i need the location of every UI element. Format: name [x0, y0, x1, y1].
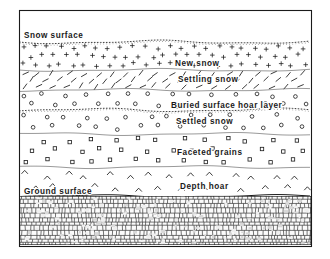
- boundary-stipple-dot: [106, 109, 107, 110]
- boundary-stipple-dot: [159, 113, 160, 114]
- ground-block-fill: [97, 214, 100, 217]
- boundary-stipple-dot: [268, 44, 269, 45]
- boundary-stipple-dot: [131, 110, 132, 111]
- boundary-stipple-dot: [72, 44, 73, 45]
- boundary-stipple-dot: [283, 109, 284, 110]
- boundary-stipple-dot: [54, 45, 55, 46]
- boundary-stipple-dot: [32, 44, 33, 45]
- boundary-stipple-dot: [196, 43, 197, 44]
- boundary-stipple-dot: [305, 43, 306, 44]
- ground-block-fill: [113, 227, 117, 231]
- ground-block-fill: [91, 228, 94, 230]
- ground-block-fill: [28, 231, 31, 235]
- ground-block-fill: [271, 230, 273, 232]
- ground-block-fill: [142, 205, 147, 209]
- ground-block-fill: [184, 226, 187, 228]
- boundary-stipple-dot: [227, 44, 228, 45]
- ground-block-fill: [92, 236, 95, 238]
- ground-block-fill: [123, 212, 127, 215]
- boundary-stipple-dot: [302, 110, 303, 111]
- boundary-stipple-dot: [258, 110, 259, 111]
- ground-block-fill: [156, 217, 159, 219]
- ground-block-fill: [78, 211, 82, 214]
- boundary-stipple-dot: [26, 44, 27, 45]
- ground-block-fill: [194, 214, 197, 216]
- boundary-stipple-dot: [218, 112, 219, 113]
- boundary-label-ground-surface: Ground surface: [24, 187, 92, 196]
- boundary-stipple-dot: [252, 111, 253, 112]
- boundary-stipple-dot: [44, 45, 45, 46]
- boundary-stipple-dot: [63, 111, 64, 112]
- ground-block-fill: [54, 207, 58, 209]
- boundary-stipple-dot: [85, 110, 86, 111]
- boundary-stipple-dot: [23, 43, 24, 44]
- ground-block-fill: [234, 231, 237, 234]
- ground-block-fill: [235, 216, 240, 218]
- ground-blocks: [19, 196, 311, 247]
- boundary-stipple-dot: [199, 112, 200, 113]
- ground-block-fill: [268, 201, 270, 205]
- ground-block-fill: [263, 227, 265, 230]
- ground-block-fill: [82, 236, 85, 238]
- boundary-stipple-dot: [147, 42, 148, 43]
- ground-block-fill: [101, 214, 104, 217]
- boundary-stipple-dot: [218, 44, 219, 45]
- boundary-stipple-dot: [141, 111, 142, 112]
- ground-block-fill: [124, 204, 128, 207]
- boundary-stipple-dot: [38, 45, 39, 46]
- ground-block-fill: [100, 203, 104, 207]
- boundary-stipple-dot: [286, 44, 287, 45]
- boundary-stipple-dot: [271, 44, 272, 45]
- boundary-stipple-dot: [141, 42, 142, 43]
- ground-block-fill: [162, 230, 166, 233]
- ground-block-fill: [152, 213, 156, 215]
- boundary-stipple-dot: [57, 111, 58, 112]
- ground-block-fill: [158, 214, 162, 217]
- boundary-stipple-dot: [94, 44, 95, 45]
- boundary-stipple-dot: [289, 44, 290, 45]
- boundary-stipple-dot: [44, 111, 45, 112]
- ground-block-fill: [110, 236, 113, 238]
- layer-label-settled-snow: Settled snow: [176, 117, 233, 126]
- boundary-stipple-dot: [184, 42, 185, 43]
- boundary-stipple-dot: [168, 113, 169, 114]
- boundary-stipple-dot: [100, 109, 101, 110]
- ground-block-fill: [288, 237, 292, 239]
- boundary-stipple-dot: [265, 44, 266, 45]
- boundary-stipple-dot: [156, 112, 157, 113]
- boundary-stipple-dot: [305, 110, 306, 111]
- boundary-stipple-dot: [206, 112, 207, 113]
- boundary-stipple-dot: [116, 109, 117, 110]
- ground-block-fill: [93, 198, 97, 201]
- boundary-label-snow-surface: Snow surface: [24, 31, 83, 40]
- boundary-stipple-dot: [113, 43, 114, 44]
- boundary-stipple-dot: [289, 109, 290, 110]
- boundary-stipple-dot: [162, 113, 163, 114]
- boundary-stipple-dot: [91, 110, 92, 111]
- boundary-stipple-dot: [299, 43, 300, 44]
- ground-block-fill: [247, 218, 251, 220]
- ground-block-fill: [265, 206, 269, 208]
- boundary-stipple-dot: [94, 110, 95, 111]
- ground-block-fill: [175, 225, 177, 228]
- ground-block-fill: [249, 227, 253, 229]
- ground-block-fill: [187, 201, 191, 204]
- ground-block-fill: [299, 215, 301, 218]
- ground-block-fill: [170, 200, 174, 202]
- boundary-stipple-dot: [175, 113, 176, 114]
- ground-block-fill: [161, 241, 165, 244]
- boundary-stipple-dot: [165, 113, 166, 114]
- boundary-stipple-dot: [172, 41, 173, 42]
- boundary-stipple-dot: [103, 109, 104, 110]
- ground-block-fill: [159, 230, 162, 233]
- boundary-stipple-dot: [119, 43, 120, 44]
- boundary-stipple-dot: [79, 111, 80, 112]
- ground-block-fill: [75, 241, 78, 243]
- ground-block-fill: [156, 241, 158, 243]
- boundary-stipple-dot: [35, 44, 36, 45]
- ground-block-fill: [268, 216, 271, 219]
- boundary-stipple-dot: [246, 44, 247, 45]
- boundary-stipple-dot: [187, 43, 188, 44]
- ground-block-fill: [102, 222, 104, 226]
- ground-block-fill: [155, 208, 158, 211]
